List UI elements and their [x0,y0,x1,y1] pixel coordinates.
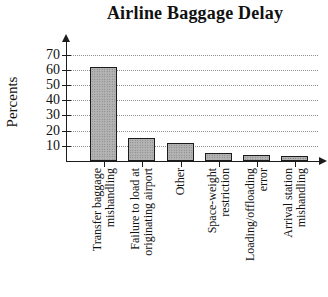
x-axis-category-label: Arrival stationmishandling [282,168,308,292]
x-tick-mark [104,162,105,167]
x-axis-category-label: Other [174,168,187,292]
y-tick-label: 30 [24,107,60,123]
bar [90,67,117,161]
y-tick-label: 20 [24,123,60,139]
x-axis-arrow-icon [319,157,327,165]
chart-title: Airline Baggage Delay [62,3,328,24]
x-tick-mark [219,162,220,167]
bar [167,143,194,161]
y-axis-line [66,40,67,162]
y-tick-label: 50 [24,77,60,93]
x-tick-mark [257,162,258,167]
x-tick-mark [295,162,296,167]
y-tick-label: 10 [24,138,60,154]
x-axis-category-label: Transfer baggagemishandling [91,168,117,292]
bar [128,138,155,161]
bar [205,153,232,161]
y-axis-label: Percents [4,57,21,147]
x-axis-category-label: Space-weightrestriction [206,168,232,292]
y-axis-arrow-icon [62,34,70,42]
x-axis-category-label: Failure to load atoriginating airport [129,168,155,292]
x-tick-mark [142,162,143,167]
x-tick-mark [181,162,182,167]
y-tick-label: 70 [24,47,60,63]
baggage-delay-chart: Airline Baggage Delay Percents 102030405… [0,0,328,297]
y-tick-label: 40 [24,92,60,108]
gridline-70 [67,55,318,56]
y-tick-label: 60 [24,62,60,78]
x-axis-category-label: Loading/offloadingerror [244,168,270,292]
